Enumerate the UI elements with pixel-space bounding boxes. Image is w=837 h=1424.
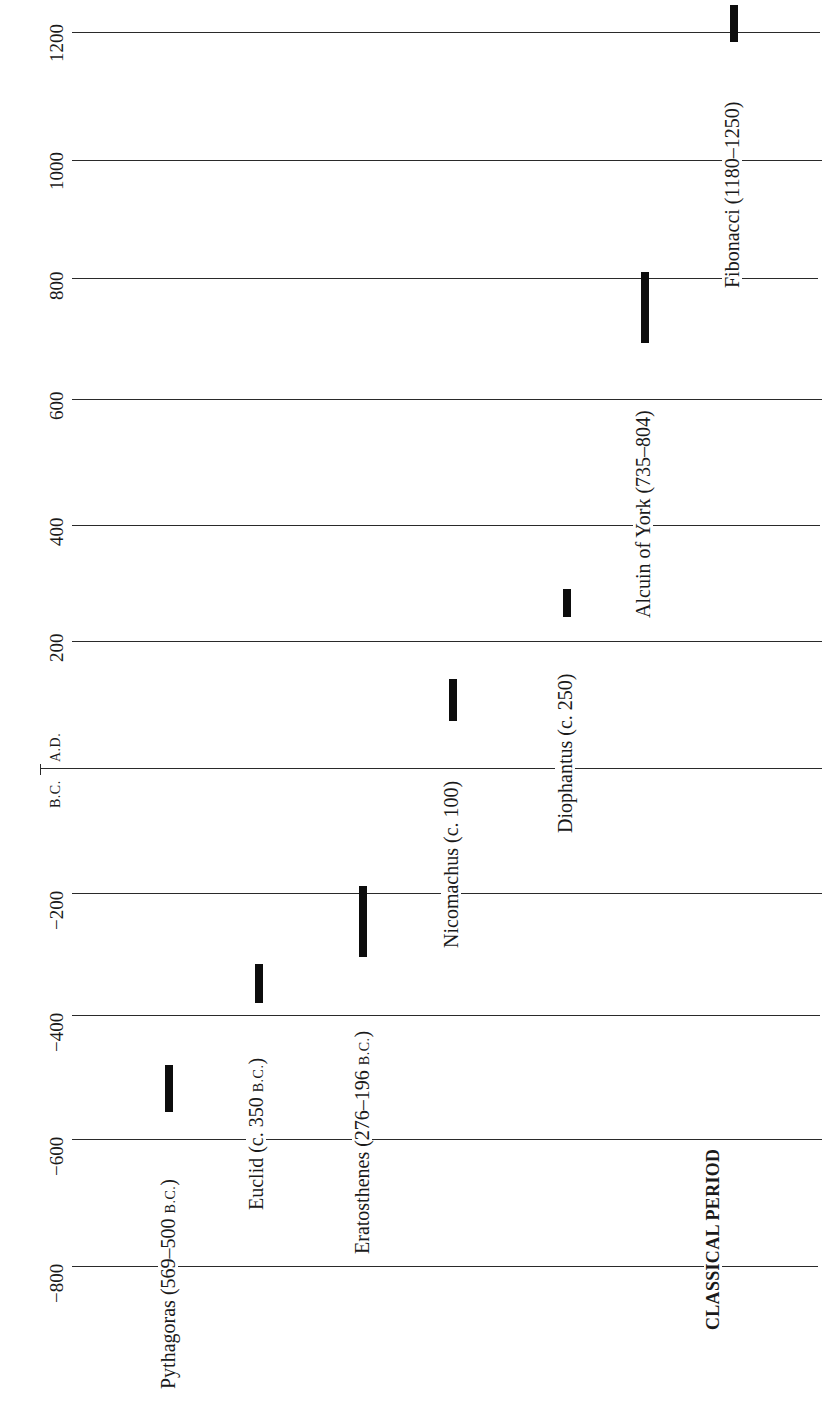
tick-label-200: 200 — [47, 634, 66, 663]
bar-diophantus — [563, 589, 571, 617]
gridline-0 — [40, 768, 822, 769]
tick-label-1200: 1200 — [47, 24, 66, 62]
tick-label-minus-600: −600 — [47, 1137, 66, 1176]
era-label-bc: B.C. — [49, 780, 63, 808]
label-nicomachus: Nicomachus (c. 100) — [441, 775, 461, 954]
label-euclid: Euclid (c. 350 B.C.) — [246, 1052, 266, 1216]
tick-label-400: 400 — [47, 518, 66, 547]
gridline-400 — [72, 525, 820, 526]
gridline-200 — [72, 641, 822, 642]
label-eratosthenes-era: B.C. — [357, 1037, 372, 1065]
bar-fibonacci — [730, 5, 738, 42]
label-pythagoras-era: B.C. — [163, 1186, 178, 1214]
label-pythagoras-text: Pythagoras (569–500 — [157, 1213, 179, 1389]
bar-pythagoras — [165, 1065, 173, 1112]
bar-nicomachus — [449, 679, 457, 721]
gridline-1200 — [72, 32, 820, 33]
label-classical-period: CLASSICAL PERIOD — [704, 1141, 722, 1338]
label-eratosthenes-close: ) — [351, 1031, 373, 1038]
tick-label-800: 800 — [47, 272, 66, 301]
label-eratosthenes-text: Eratosthenes (276–196 — [351, 1065, 373, 1254]
bar-euclid — [255, 964, 263, 1003]
timeline-chart: 1200 1000 800 600 400 200 −200 −400 −600… — [0, 0, 837, 1424]
tick-label-minus-400: −400 — [47, 1013, 66, 1052]
label-euclid-text: Euclid (c. 350 — [245, 1092, 267, 1210]
label-alcuin: Alcuin of York (735–804) — [633, 404, 653, 624]
tick-label-minus-200: −200 — [47, 891, 66, 930]
gridline-600 — [72, 399, 822, 400]
era-separator — [40, 764, 41, 775]
label-pythagoras-close: ) — [157, 1179, 179, 1186]
bar-eratosthenes — [359, 886, 367, 957]
label-eratosthenes: Eratosthenes (276–196 B.C.) — [352, 1025, 372, 1260]
tick-label-1000: 1000 — [47, 152, 66, 190]
bar-alcuin — [641, 272, 649, 343]
label-diophantus: Diophantus (c. 250) — [555, 668, 575, 839]
label-fibonacci: Fibonacci (1180–1250) — [722, 96, 742, 294]
gridline-minus-400 — [72, 1015, 820, 1016]
gridline-800 — [72, 278, 818, 279]
tick-label-minus-800: −800 — [47, 1264, 66, 1303]
label-pythagoras: Pythagoras (569–500 B.C.) — [158, 1173, 178, 1395]
label-euclid-era: B.C. — [251, 1065, 266, 1093]
tick-label-600: 600 — [47, 392, 66, 421]
label-euclid-close: ) — [245, 1058, 267, 1065]
gridline-1000 — [72, 160, 822, 161]
era-label-ad: A.D. — [49, 733, 63, 762]
